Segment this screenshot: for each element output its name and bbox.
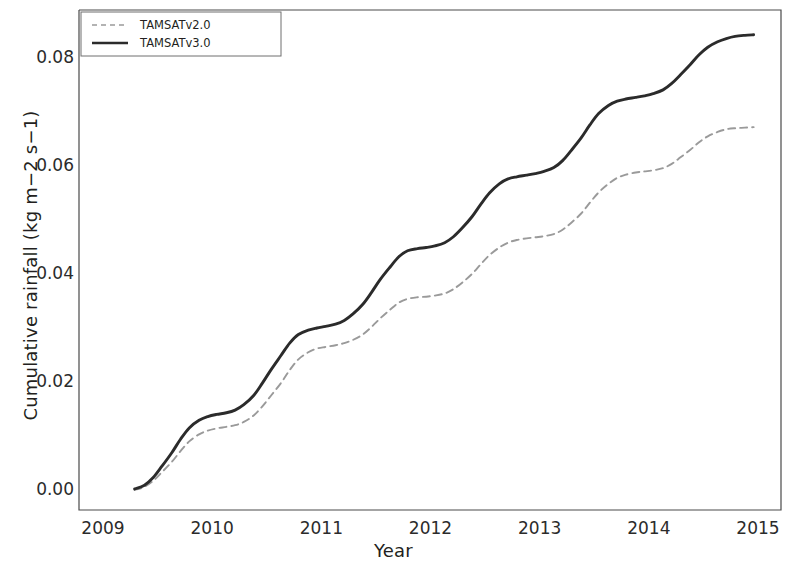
series-line-tamsatv3	[135, 35, 754, 489]
legend-label-tamsatv2: TAMSATv2.0	[139, 18, 211, 32]
series-line-tamsatv2	[135, 127, 754, 490]
plot-area: TAMSATv2.0 TAMSATv3.0	[0, 0, 787, 565]
chart-figure: Cumulative rainfall (kg m−2 s−1) Year 0.…	[0, 0, 787, 565]
legend-label-tamsatv3: TAMSATv3.0	[139, 36, 211, 50]
